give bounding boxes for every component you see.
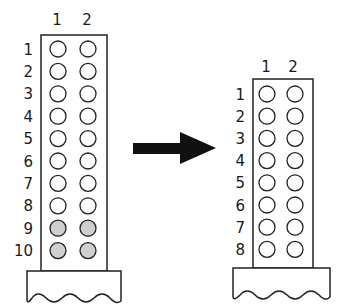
seat-circle	[259, 197, 275, 213]
row-label: 3	[23, 85, 33, 103]
seat-circle	[50, 41, 66, 57]
row-label: 8	[235, 241, 245, 259]
row-label: 10	[14, 242, 33, 260]
seat-circle	[259, 153, 275, 169]
right-grid-base	[233, 268, 330, 299]
row-label: 2	[23, 63, 33, 81]
seat-circle	[287, 153, 303, 169]
grid-row: 1	[23, 41, 96, 59]
seat-circle	[259, 241, 275, 257]
seat-circle	[80, 86, 96, 102]
grid-row: 2	[23, 63, 96, 81]
row-label: 5	[235, 174, 245, 192]
seat-circle	[50, 86, 66, 102]
seat-circle	[287, 86, 303, 102]
grid-row: 3	[235, 130, 303, 148]
grid-row: 8	[235, 241, 303, 259]
seat-circle	[50, 108, 66, 124]
grid-row: 4	[235, 152, 303, 170]
grid-row: 4	[23, 108, 96, 126]
grid-row: 7	[235, 219, 303, 237]
row-label: 4	[23, 108, 33, 126]
seat-circle	[287, 175, 303, 191]
right-grid: 1 2 12345678	[233, 58, 330, 299]
seat-circle	[50, 175, 66, 191]
seat-circle	[287, 197, 303, 213]
seat-circle-shaded	[50, 243, 66, 259]
seat-circle	[50, 63, 66, 79]
left-column-label-1: 1	[52, 11, 62, 29]
seat-circle	[287, 108, 303, 124]
seat-circle	[80, 63, 96, 79]
seat-circle	[50, 153, 66, 169]
grid-row: 8	[23, 197, 96, 215]
row-label: 2	[235, 108, 245, 126]
grid-row: 9	[23, 220, 96, 238]
grid-row: 3	[23, 85, 96, 103]
grid-row: 7	[23, 175, 96, 193]
seat-circle	[259, 219, 275, 235]
seat-circle	[287, 241, 303, 257]
row-label: 7	[235, 219, 245, 237]
seat-circle	[80, 175, 96, 191]
row-label: 6	[235, 197, 245, 215]
row-label: 7	[23, 175, 33, 193]
grid-row: 5	[235, 174, 303, 192]
seat-circle	[259, 175, 275, 191]
arrow-right-icon	[133, 132, 216, 164]
grid-row: 2	[235, 108, 303, 126]
row-label: 5	[23, 130, 33, 148]
left-column-label-2: 2	[82, 11, 92, 29]
grid-row: 6	[235, 197, 303, 215]
seat-circle	[259, 108, 275, 124]
row-label: 1	[235, 86, 245, 104]
row-label: 4	[235, 152, 245, 170]
right-grid-frame	[253, 79, 313, 268]
row-label: 1	[23, 41, 33, 59]
seat-circle	[50, 198, 66, 214]
right-column-label-1: 1	[261, 58, 271, 76]
row-label: 3	[235, 130, 245, 148]
seat-circle	[80, 131, 96, 147]
grid-row: 1	[235, 86, 303, 104]
seat-circle	[287, 130, 303, 146]
seat-circle	[80, 153, 96, 169]
seat-circle	[287, 219, 303, 235]
grid-row: 10	[14, 242, 96, 260]
grid-row: 6	[23, 153, 96, 171]
seat-circle	[259, 130, 275, 146]
seat-circle	[80, 41, 96, 57]
left-grid: 1 2 12345678910	[14, 11, 121, 302]
left-grid-base	[27, 271, 121, 302]
seat-circle-shaded	[80, 243, 96, 259]
seat-circle	[259, 86, 275, 102]
seat-circle-shaded	[80, 220, 96, 236]
row-label: 6	[23, 153, 33, 171]
seat-circle-shaded	[50, 220, 66, 236]
row-label: 8	[23, 197, 33, 215]
grid-row: 5	[23, 130, 96, 148]
seat-circle	[80, 198, 96, 214]
diagram-canvas: 1 2 12345678910 1 2 12345678	[0, 0, 341, 306]
seat-circle	[80, 108, 96, 124]
row-label: 9	[23, 220, 33, 238]
seat-circle	[50, 131, 66, 147]
right-column-label-2: 2	[288, 58, 298, 76]
